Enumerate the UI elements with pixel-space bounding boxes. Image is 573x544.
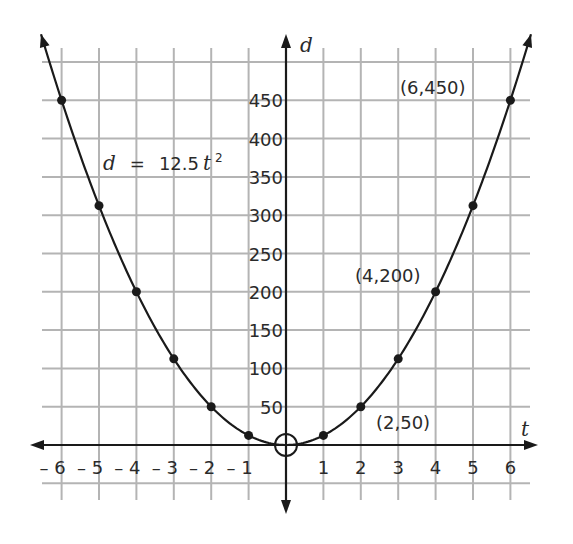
data-point bbox=[469, 201, 478, 210]
y-axis-up-arrow-icon bbox=[281, 34, 291, 48]
data-point bbox=[244, 431, 253, 440]
x-tick-label: 4 bbox=[430, 457, 441, 478]
point-annotation: (2,50) bbox=[376, 412, 430, 433]
x-axis-label: t bbox=[521, 417, 530, 441]
x-tick-label: – 4 bbox=[114, 457, 140, 478]
data-point bbox=[356, 402, 365, 411]
equation-coefficient: 12.5 bbox=[159, 153, 199, 174]
equation-variable: t bbox=[203, 151, 212, 175]
x-tick-label: – 3 bbox=[152, 457, 178, 478]
data-point bbox=[132, 287, 141, 296]
y-axis-down-arrow-icon bbox=[281, 500, 291, 514]
equation-label: d = 12.5 t 2 bbox=[103, 151, 223, 175]
y-tick-label: 300 bbox=[249, 205, 283, 226]
x-tick-label: – 5 bbox=[77, 457, 103, 478]
y-tick-label: 50 bbox=[260, 397, 283, 418]
x-axis-right-arrow-icon bbox=[524, 440, 538, 450]
y-tick-label: 200 bbox=[249, 282, 283, 303]
x-tick-label: 5 bbox=[467, 457, 478, 478]
data-point bbox=[169, 354, 178, 363]
x-tick-label: – 6 bbox=[40, 457, 66, 478]
y-tick-label: 400 bbox=[249, 129, 283, 150]
x-tick-label: – 1 bbox=[227, 457, 253, 478]
y-tick-label: 250 bbox=[249, 244, 283, 265]
data-point bbox=[207, 402, 216, 411]
y-tick-label: 350 bbox=[249, 167, 283, 188]
data-point bbox=[506, 96, 515, 105]
point-annotations: (6,450)(4,200)(2,50) bbox=[355, 77, 466, 433]
x-tick-label: 2 bbox=[355, 457, 366, 478]
curve-right-arrow-icon bbox=[522, 34, 532, 48]
y-tick-label: 450 bbox=[249, 90, 283, 111]
y-tick-labels: 50100150200250300350400450 bbox=[249, 90, 283, 417]
parabola-chart: – 6– 5– 4– 3– 2– 1123456 501001502002503… bbox=[0, 0, 573, 544]
equation-equals: = bbox=[130, 153, 145, 174]
x-tick-labels: – 6– 5– 4– 3– 2– 1123456 bbox=[40, 457, 517, 478]
data-point bbox=[431, 287, 440, 296]
x-tick-label: 6 bbox=[505, 457, 516, 478]
axes bbox=[30, 34, 538, 514]
y-tick-label: 150 bbox=[249, 320, 283, 341]
x-tick-label: 3 bbox=[392, 457, 403, 478]
curve-left-arrow-icon bbox=[40, 34, 50, 48]
data-point bbox=[95, 201, 104, 210]
y-tick-label: 100 bbox=[249, 358, 283, 379]
equation-exponent: 2 bbox=[215, 151, 223, 165]
x-tick-label: 1 bbox=[318, 457, 329, 478]
x-axis-left-arrow-icon bbox=[30, 440, 44, 450]
data-point bbox=[394, 354, 403, 363]
point-annotation: (6,450) bbox=[400, 77, 466, 98]
data-point bbox=[319, 431, 328, 440]
point-annotation: (4,200) bbox=[355, 265, 421, 286]
equation-lhs: d bbox=[103, 151, 116, 175]
x-tick-label: – 2 bbox=[189, 457, 215, 478]
y-axis-label: d bbox=[300, 33, 313, 57]
data-point bbox=[57, 96, 66, 105]
